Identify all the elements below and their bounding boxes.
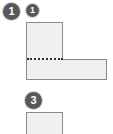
step-badge-3[interactable]: 3 <box>25 92 42 109</box>
dotted-division-line <box>27 58 63 60</box>
lower-rectangle <box>26 112 63 134</box>
l-shape-horizontal-arm <box>26 59 107 80</box>
step-badge-1[interactable]: 1 <box>3 3 20 20</box>
figure-canvas: 1 1 3 <box>0 0 113 134</box>
label-badge-1[interactable]: 1 <box>26 4 39 17</box>
